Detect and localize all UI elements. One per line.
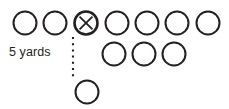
player-marker — [163, 43, 186, 66]
second-row — [103, 43, 186, 66]
player-circle — [76, 81, 99, 104]
player-marker — [44, 12, 67, 35]
player-marker — [14, 12, 37, 35]
player-circle — [103, 43, 126, 66]
distance-label: 5 yards — [9, 45, 51, 59]
player-circle — [14, 12, 37, 35]
player-marker — [133, 43, 156, 66]
front-row — [14, 12, 220, 35]
play-diagram: 5 yards — [0, 0, 229, 109]
player-circle — [44, 12, 67, 35]
back-row — [76, 81, 99, 104]
player-circle — [133, 43, 156, 66]
player-marker-x — [75, 12, 98, 35]
player-circle — [163, 43, 186, 66]
player-marker — [103, 43, 126, 66]
player-marker — [106, 12, 129, 35]
player-circle — [166, 12, 189, 35]
player-circle — [106, 12, 129, 35]
player-marker — [166, 12, 189, 35]
player-marker — [136, 12, 159, 35]
player-circle — [136, 12, 159, 35]
player-circle — [197, 12, 220, 35]
player-marker — [197, 12, 220, 35]
player-marker — [76, 81, 99, 104]
